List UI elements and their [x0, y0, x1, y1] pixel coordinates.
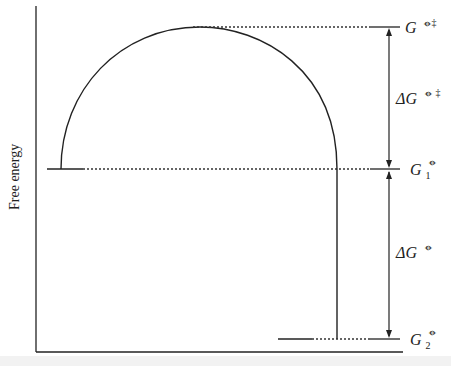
final-state-label: G 2 ⦵	[410, 326, 437, 352]
reaction-symbol: ΔG	[395, 244, 417, 261]
g1-superscript: ⦵	[428, 156, 437, 167]
ts-symbol: G	[405, 19, 417, 36]
reaction-superscript: ⦵	[424, 241, 433, 252]
reaction-arrow-up-head	[386, 171, 392, 179]
g1-subscript: 1	[426, 170, 431, 181]
ts-superscript: ⦵‡	[423, 17, 437, 28]
g2-subscript: 2	[426, 340, 431, 351]
activation-energy-label: ΔG ⦵ ‡	[395, 87, 440, 107]
energy-diagram: Free energy G ⦵‡ ΔG ⦵ ‡ G 1 ⦵ ΔG ⦵ G 2 ⦵	[0, 0, 451, 366]
activation-superscript: ⦵ ‡	[424, 87, 441, 98]
activation-symbol: ΔG	[395, 90, 417, 107]
transition-state-label: G ⦵‡	[405, 17, 437, 36]
reaction-path-curve	[61, 27, 337, 339]
g2-superscript: ⦵	[428, 326, 437, 337]
g2-symbol: G	[410, 331, 422, 348]
reaction-arrow-down-head	[386, 330, 392, 338]
g1-symbol: G	[410, 161, 422, 178]
y-axis-label: Free energy	[7, 144, 22, 210]
activation-arrow-down-head	[386, 160, 392, 168]
initial-state-label: G 1 ⦵	[410, 156, 437, 182]
reaction-energy-label: ΔG ⦵	[395, 241, 433, 261]
activation-arrow-up-head	[386, 28, 392, 36]
